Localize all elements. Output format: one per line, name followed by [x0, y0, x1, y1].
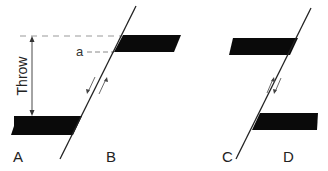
throw-arrowhead-top-icon — [30, 36, 35, 42]
bed-lower-block-d — [252, 113, 318, 130]
block-b-label: B — [106, 148, 116, 165]
throw-label: Throw — [14, 56, 30, 96]
arrowhead-up-icon — [271, 77, 275, 82]
fault-line-left — [60, 6, 136, 159]
bed-lower-block-a — [11, 116, 82, 135]
block-d-label: D — [283, 148, 294, 165]
block-c-label: C — [222, 148, 233, 165]
throw-arrowhead-bottom-icon — [30, 110, 35, 116]
left-panel: Throw a A B — [11, 6, 181, 165]
arrowhead-down-icon — [273, 89, 277, 94]
fault-line-right — [236, 8, 311, 159]
point-a-label: a — [76, 44, 84, 59]
right-panel: C D — [222, 8, 318, 165]
block-a-label: A — [13, 148, 23, 165]
fault-diagram: Throw a A B C D — [0, 0, 328, 171]
slip-arrow-up — [99, 79, 106, 94]
bed-upper-block-b — [114, 35, 181, 52]
bed-upper-block-c — [229, 38, 298, 55]
